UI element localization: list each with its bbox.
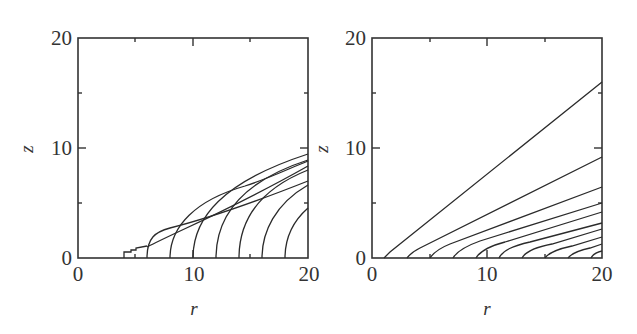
right-panel: 20 10 0 0 10 20 r z (311, 26, 613, 319)
figure: 20 10 0 0 10 20 r z (0, 0, 637, 334)
right-ylabel: z (311, 145, 332, 154)
left-xtick-0: 0 (73, 262, 84, 286)
right-plot-frame (372, 38, 602, 258)
left-xtick-10: 10 (184, 262, 205, 286)
right-curves (384, 82, 602, 258)
right-xlabel: r (483, 298, 491, 319)
left-ytick-20: 20 (51, 26, 72, 50)
left-ytick-0: 0 (62, 246, 73, 270)
left-xtick-20: 20 (299, 262, 320, 286)
right-ytick-0: 0 (356, 246, 367, 270)
left-ytick-10: 10 (51, 136, 72, 160)
right-ytick-20: 20 (345, 26, 366, 50)
right-ticks (372, 38, 602, 258)
left-ylabel: z (16, 145, 37, 154)
left-xlabel: r (190, 298, 198, 319)
right-ytick-10: 10 (345, 136, 366, 160)
left-panel: 20 10 0 0 10 20 r z (16, 26, 320, 319)
right-xtick-10: 10 (477, 262, 498, 286)
right-xtick-20: 20 (592, 262, 613, 286)
right-xtick-0: 0 (367, 262, 378, 286)
left-curves (124, 154, 308, 258)
